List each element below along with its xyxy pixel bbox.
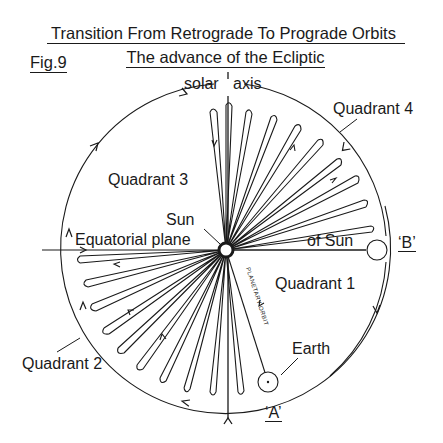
quadrant-3-label: Quadrant 3 xyxy=(108,171,188,189)
axis-label: axis xyxy=(233,75,261,93)
equatorial-plane-label: Equatorial plane xyxy=(75,231,191,249)
orbit-diagram: PLANETARY ORBIT xyxy=(0,0,443,443)
quadrant-1-label: Quadrant 1 xyxy=(275,275,355,293)
sun-label: Sun xyxy=(166,211,194,229)
planetary-orbit-label: PLANETARY ORBIT xyxy=(245,266,270,326)
point-a-label: ‘A’ xyxy=(265,404,282,422)
point-b-label: ‘B’ xyxy=(398,234,416,252)
sun-icon xyxy=(219,243,233,257)
earth-label: Earth xyxy=(292,340,330,358)
solar-label: solar xyxy=(184,75,219,93)
point-a-text: ‘A’ xyxy=(265,404,282,422)
earth-center-dot xyxy=(267,381,269,383)
of-sun-label: of Sun xyxy=(307,232,353,250)
quadrant-4-label: Quadrant 4 xyxy=(333,100,413,118)
planet-b-icon xyxy=(367,240,387,260)
point-b-text: ‘B’ xyxy=(398,234,416,252)
quadrant-2-label: Quadrant 2 xyxy=(22,355,102,373)
